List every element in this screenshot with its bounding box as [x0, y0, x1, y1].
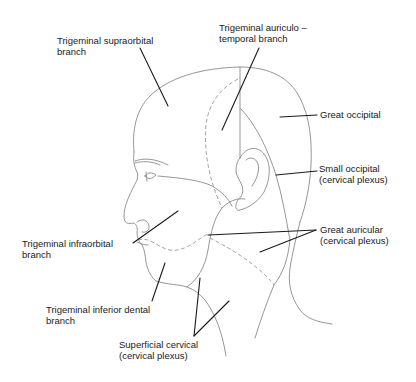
leader-great-occipital [280, 115, 317, 117]
leader-lines [133, 48, 317, 336]
boundary-dashed-lines [138, 79, 274, 285]
leader-superficial-cervical-b [194, 301, 229, 336]
label-trigeminal-auriculotemporal: Trigeminal auriculo – temporal branch [219, 22, 307, 44]
head-nerve-diagram: Trigeminal supraorbital branch Trigemina… [0, 0, 416, 382]
label-trigeminal-infraorbital: Trigeminal infraorbital branch [22, 238, 113, 260]
label-great-auricular: Great auricular (cervical plexus) [320, 224, 389, 246]
label-small-occipital: Small occipital (cervical plexus) [319, 163, 388, 185]
label-trigeminal-inferior-dental: Trigeminal inferior dental branch [46, 304, 150, 326]
leader-great-auricular-b [260, 230, 316, 252]
label-trigeminal-supraorbital: Trigeminal supraorbital branch [57, 35, 153, 57]
ear [236, 148, 269, 210]
leader-infraorbital [133, 211, 178, 243]
leader-inferior-dental [152, 263, 165, 301]
leader-great-auricular-a [208, 230, 316, 235]
leader-superficial-cervical-a [194, 278, 200, 336]
label-superficial-cervical: Superficial cervical (cervical plexus) [119, 339, 198, 361]
region-boundaries [240, 67, 332, 338]
label-great-occipital: Great occipital [320, 109, 381, 120]
leader-auriculotemporal [222, 48, 259, 130]
